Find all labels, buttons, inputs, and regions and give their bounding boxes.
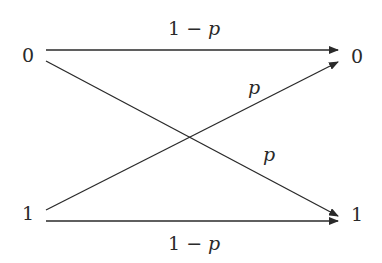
output-0-label: 0: [351, 45, 363, 67]
edge-0-to-0-label: 1 − p: [168, 17, 220, 39]
edge-1-to-0-label: p: [248, 76, 260, 98]
output-1-label: 1: [351, 203, 363, 225]
edge-1-to-1-label: 1 − p: [168, 232, 220, 254]
input-1-label: 1: [22, 202, 34, 224]
bsc-diagram: 0 1 0 1 1 − p p p 1 − p: [0, 0, 382, 263]
input-0-label: 0: [22, 44, 34, 66]
edge-0-to-1-label: p: [263, 143, 275, 165]
